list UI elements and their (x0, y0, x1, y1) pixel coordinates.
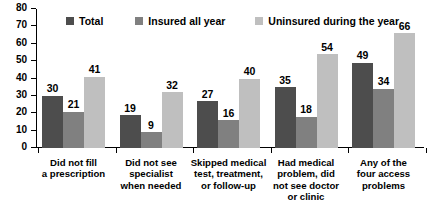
bar-slot: 41 (84, 9, 105, 148)
category-label: Skipped medicaltest, treatment,or follow… (190, 157, 267, 191)
x-axis-tick (116, 148, 117, 153)
bar[interactable] (218, 120, 239, 148)
y-axis-tick-label: 70 (5, 20, 27, 30)
legend-entry-uninsured-during-the-year: Uninsured during the year (255, 16, 399, 27)
y-axis-line (36, 9, 37, 148)
category-label-line: not see doctor (268, 180, 345, 191)
category-label-line: Did not see (113, 157, 190, 168)
bar-group: 493466 (352, 9, 415, 148)
bar[interactable] (120, 115, 141, 148)
bar-group: 19932 (120, 9, 183, 148)
bar-value-label: 16 (223, 108, 235, 119)
bar-slot: 19 (120, 9, 141, 148)
y-axis-tick (31, 8, 36, 9)
bar-group: 351854 (275, 9, 338, 148)
bar-value-label: 9 (148, 120, 154, 131)
bar-group: 302141 (42, 9, 105, 148)
bar-value-label: 21 (68, 99, 80, 110)
bar-slot: 49 (352, 9, 373, 148)
category-label-line: a prescription (35, 168, 112, 179)
bar[interactable] (394, 33, 415, 148)
legend-label-total: Total (79, 16, 103, 27)
bar[interactable] (197, 101, 218, 148)
y-axis-tick-label: 10 (5, 125, 27, 135)
category-label-line: Skipped medical (190, 157, 267, 168)
x-axis-tick (426, 148, 427, 153)
x-axis-tick (38, 148, 39, 153)
bar[interactable] (63, 112, 84, 148)
bar-slot: 9 (141, 9, 162, 148)
legend-label-uninsured-during-the-year: Uninsured during the year (268, 16, 399, 27)
bar-slot: 21 (63, 9, 84, 148)
category-label-line: or clinic (268, 191, 345, 202)
category-label-line: four access (345, 168, 422, 179)
category-label: Any of thefour accessproblems (345, 157, 422, 191)
bar-slot: 16 (218, 9, 239, 148)
y-axis-tick (31, 112, 36, 113)
bar-slot: 34 (373, 9, 394, 148)
bar-slot: 32 (162, 9, 183, 148)
y-axis-tick-label: 80 (5, 3, 27, 13)
bar[interactable] (42, 96, 63, 148)
bar[interactable] (275, 87, 296, 148)
legend-label-insured-all-year: Insured all year (148, 16, 225, 27)
category-label-line: test, treatment, (190, 168, 267, 179)
bar[interactable] (352, 63, 373, 148)
bar-slot: 54 (317, 9, 338, 148)
bar-value-label: 19 (124, 103, 136, 114)
bar-slot: 66 (394, 9, 415, 148)
category-label-line: Any of the (345, 157, 422, 168)
bar-slot: 35 (275, 9, 296, 148)
category-label: Did not seespecialistwhen needed (113, 157, 190, 191)
bar-value-label: 49 (357, 50, 369, 61)
y-axis-tick-label: 40 (5, 73, 27, 83)
y-axis-tick (31, 130, 36, 131)
y-axis-tick-label: 0 (5, 142, 27, 152)
y-axis-tick-label: 30 (5, 90, 27, 100)
x-axis-tick (271, 148, 272, 153)
legend-entry-insured-all-year: Insured all year (135, 16, 225, 27)
legend-swatch-icon-total (66, 17, 74, 25)
bar-value-label: 40 (244, 66, 256, 77)
x-axis-tick (193, 148, 194, 153)
bar-slot: 27 (197, 9, 218, 148)
legend-entry-total: Total (66, 16, 103, 27)
category-label-line: Had medical (268, 157, 345, 168)
bar-value-label: 35 (279, 75, 291, 86)
bar-value-label: 34 (378, 76, 390, 87)
bar[interactable] (317, 54, 338, 148)
bar-value-label: 32 (166, 80, 178, 91)
chart-legend: Total Insured all year Uninsured during … (66, 14, 399, 28)
bar-slot: 18 (296, 9, 317, 148)
y-axis-tick-label: 20 (5, 107, 27, 117)
bar-value-label: 30 (47, 83, 59, 94)
category-label-line: when needed (113, 180, 190, 191)
grouped-bar-chart: Total Insured all year Uninsured during … (0, 0, 428, 215)
category-label-line: specialist (113, 168, 190, 179)
category-label-line: problem, did (268, 168, 345, 179)
category-label-line: or follow-up (190, 180, 267, 191)
bar[interactable] (162, 92, 183, 148)
y-axis-tick (31, 147, 36, 148)
bar-group: 271640 (197, 9, 260, 148)
y-axis-tick-label: 50 (5, 55, 27, 65)
bar[interactable] (141, 132, 162, 148)
y-axis-tick (31, 25, 36, 26)
bar[interactable] (373, 89, 394, 148)
bar-value-label: 54 (321, 42, 333, 53)
bar[interactable] (296, 117, 317, 148)
bar-value-label: 27 (202, 89, 214, 100)
category-label-line: problems (345, 180, 422, 191)
category-label: Did not filla prescription (35, 157, 112, 180)
bar-slot: 30 (42, 9, 63, 148)
category-label-line: Did not fill (35, 157, 112, 168)
legend-swatch-icon-uninsured-during-the-year (255, 17, 263, 25)
bar[interactable] (84, 77, 105, 148)
y-axis-tick (31, 95, 36, 96)
bar[interactable] (239, 79, 260, 149)
y-axis-tick (31, 60, 36, 61)
category-label: Had medicalproblem, didnot see doctoror … (268, 157, 345, 203)
y-axis-tick-label: 60 (5, 38, 27, 48)
y-axis-tick (31, 78, 36, 79)
bar-slot: 40 (239, 9, 260, 148)
